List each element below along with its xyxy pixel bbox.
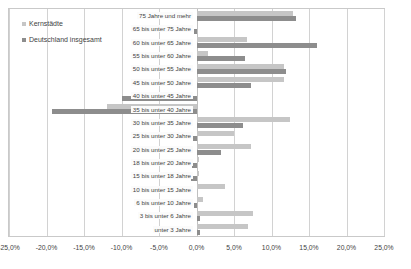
category-label: 20 bis unter 25 Jahre xyxy=(131,146,193,153)
bar-kernstaedte xyxy=(197,211,253,216)
bar-row: unter 3 Jahre xyxy=(9,223,384,236)
bar-row: 3 bis unter 6 Jahre xyxy=(9,209,384,222)
bar-row: 15 bis unter 18 Jahre xyxy=(9,169,384,182)
bar-row: 50 bis unter 55 Jahre xyxy=(9,62,384,75)
x-axis-tick-label: -25,0% xyxy=(0,244,20,251)
category-label: 55 bis unter 60 Jahre xyxy=(131,52,193,59)
bar-kernstaedte xyxy=(197,11,293,16)
x-axis-tick-label: 10,0% xyxy=(262,244,281,251)
bar-deutschland xyxy=(197,56,245,61)
category-label: 18 bis unter 20 Jahre xyxy=(131,159,193,166)
bar-kernstaedte xyxy=(197,184,226,189)
bar-kernstaedte xyxy=(197,64,284,69)
legend-swatch-icon xyxy=(22,22,26,26)
category-label: unter 3 Jahre xyxy=(153,226,193,233)
bar-deutschland xyxy=(193,136,197,141)
category-label: 3 bis unter 6 Jahre xyxy=(138,212,193,219)
bar-kernstaedte xyxy=(197,77,285,82)
bar-kernstaedte xyxy=(197,197,203,202)
category-label: 25 bis unter 30 Jahre xyxy=(131,132,193,139)
category-label: 45 bis unter 50 Jahre xyxy=(131,79,193,86)
bar-row: 6 bis unter 10 Jahre xyxy=(9,196,384,209)
bar-deutschland xyxy=(197,83,252,88)
bar-kernstaedte xyxy=(197,37,247,42)
category-label: 75 Jahre und mehr xyxy=(137,12,193,19)
bar-deutschland xyxy=(197,123,244,128)
bar-deutschland xyxy=(194,203,196,208)
x-axis-tick-label: 25,0% xyxy=(374,244,393,251)
bar-row: 25 bis unter 30 Jahre xyxy=(9,129,384,142)
bar-row: 18 bis unter 20 Jahre xyxy=(9,156,384,169)
chart-legend: KernstädteDeutschland insgesamt xyxy=(22,20,102,52)
x-axis: -25,0%-20,0%-15,0%-10,0%-5,0%0,0%5,0%10,… xyxy=(8,238,385,260)
x-axis-tick-label: 5,0% xyxy=(226,244,242,251)
category-label: 50 bis unter 55 Jahre xyxy=(131,65,193,72)
x-axis-tick-label: -5,0% xyxy=(150,244,168,251)
gridline xyxy=(384,9,385,236)
category-label: 30 bis unter 35 Jahre xyxy=(131,119,193,126)
legend-item: Kernstädte xyxy=(22,20,102,27)
category-label: 60 bis unter 65 Jahre xyxy=(131,39,193,46)
bar-row: 40 bis unter 45 Jahre xyxy=(9,89,384,102)
x-axis-tick-label: -15,0% xyxy=(73,244,95,251)
bar-row: 30 bis unter 35 Jahre xyxy=(9,116,384,129)
x-axis-tick-label: -20,0% xyxy=(36,244,58,251)
bar-row: 10 bis unter 15 Jahre xyxy=(9,183,384,196)
category-label: 10 bis unter 15 Jahre xyxy=(131,186,193,193)
bar-kernstaedte xyxy=(197,117,291,122)
bar-kernstaedte xyxy=(197,144,251,149)
population-change-bar-chart: 75 Jahre und mehr65 bis unter 75 Jahre60… xyxy=(0,0,411,269)
bar-kernstaedte xyxy=(197,157,199,162)
x-axis-tick-label: 0,0% xyxy=(189,244,205,251)
legend-label: Deutschland insgesamt xyxy=(29,36,102,43)
category-label: 65 bis unter 75 Jahre xyxy=(131,25,193,32)
category-label: 15 bis unter 18 Jahre xyxy=(131,172,193,179)
bar-kernstaedte xyxy=(197,224,248,229)
x-axis-tick-label: -10,0% xyxy=(111,244,133,251)
legend-item: Deutschland insgesamt xyxy=(22,36,102,43)
bar-deutschland xyxy=(197,69,286,74)
bar-row: 35 bis unter 40 Jahre xyxy=(9,102,384,115)
bar-deutschland xyxy=(197,43,318,48)
x-axis-tick-label: 15,0% xyxy=(299,244,318,251)
x-axis-tick-label: 20,0% xyxy=(337,244,356,251)
bar-deutschland xyxy=(197,216,200,221)
category-label: 35 bis unter 40 Jahre xyxy=(131,106,193,113)
category-label: 40 bis unter 45 Jahre xyxy=(131,92,193,99)
bar-deutschland xyxy=(194,29,197,34)
bar-kernstaedte xyxy=(197,51,208,56)
bar-deutschland xyxy=(197,16,297,21)
category-label: 6 bis unter 10 Jahre xyxy=(134,199,193,206)
legend-label: Kernstädte xyxy=(29,20,63,27)
bar-row: 45 bis unter 50 Jahre xyxy=(9,76,384,89)
bar-kernstaedte xyxy=(197,131,235,136)
legend-swatch-icon xyxy=(22,38,26,42)
bar-deutschland xyxy=(197,150,222,155)
bar-deutschland xyxy=(197,230,201,235)
bar-kernstaedte xyxy=(197,171,199,176)
bar-row: 20 bis unter 25 Jahre xyxy=(9,143,384,156)
